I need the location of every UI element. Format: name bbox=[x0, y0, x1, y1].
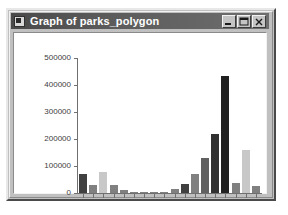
x-axis-tick bbox=[236, 194, 237, 198]
x-axis-tick bbox=[144, 194, 145, 198]
chart-bar bbox=[140, 192, 148, 193]
y-axis-tick-label: 500000 bbox=[14, 53, 71, 62]
x-axis-tick bbox=[195, 194, 196, 198]
y-axis-tick bbox=[74, 112, 78, 113]
app-icon bbox=[14, 16, 25, 27]
y-axis-line bbox=[77, 58, 78, 194]
x-axis-tick bbox=[83, 194, 84, 198]
chart-bar bbox=[252, 186, 260, 193]
chart-bar bbox=[120, 190, 128, 193]
x-axis-tick bbox=[103, 194, 104, 198]
title-bar[interactable]: Graph of parks_polygon bbox=[11, 13, 269, 29]
chart-bar bbox=[160, 192, 168, 193]
y-axis-tick bbox=[74, 58, 78, 59]
chart-bar bbox=[130, 192, 138, 193]
chart-bar bbox=[110, 185, 118, 193]
x-axis-tick bbox=[185, 194, 186, 198]
chart-bar bbox=[150, 192, 158, 193]
chart-bar bbox=[79, 174, 87, 193]
close-icon bbox=[253, 16, 265, 27]
x-axis-tick bbox=[124, 194, 125, 198]
y-axis-tick-label: 100000 bbox=[14, 161, 71, 170]
y-axis-tick-label: 200000 bbox=[14, 134, 71, 143]
chart-bar bbox=[221, 76, 229, 193]
y-axis-tick bbox=[74, 139, 78, 140]
chart-bar bbox=[211, 134, 219, 193]
y-axis-tick-label: 0 bbox=[14, 188, 71, 197]
minimize-button[interactable] bbox=[222, 15, 236, 28]
chart-bar bbox=[171, 189, 179, 193]
y-axis-tick-label: 300000 bbox=[14, 107, 71, 116]
x-axis-tick bbox=[175, 194, 176, 198]
bar-chart: 0100000200000300000400000500000 bbox=[14, 33, 266, 193]
chart-bar bbox=[201, 158, 209, 193]
window-title: Graph of parks_polygon bbox=[30, 15, 221, 27]
chart-bar bbox=[232, 183, 240, 193]
x-axis-tick bbox=[93, 194, 94, 198]
plot-client-area: 0100000200000300000400000500000 bbox=[13, 32, 267, 194]
close-button[interactable] bbox=[252, 15, 266, 28]
x-axis-tick bbox=[246, 194, 247, 198]
x-axis-tick bbox=[114, 194, 115, 198]
chart-bar bbox=[89, 185, 97, 193]
minimize-icon bbox=[223, 16, 235, 27]
x-axis-tick bbox=[154, 194, 155, 198]
x-axis-tick bbox=[164, 194, 165, 198]
chart-bar bbox=[191, 174, 199, 193]
maximize-icon bbox=[238, 16, 250, 27]
x-axis-tick bbox=[256, 194, 257, 198]
chart-bar bbox=[181, 184, 189, 193]
y-axis-tick bbox=[74, 85, 78, 86]
y-axis-tick bbox=[74, 166, 78, 167]
y-axis-tick bbox=[74, 193, 78, 194]
y-axis-tick-label: 400000 bbox=[14, 80, 71, 89]
x-axis-tick bbox=[205, 194, 206, 198]
x-axis-line bbox=[77, 193, 262, 194]
maximize-button[interactable] bbox=[237, 15, 251, 28]
chart-bar bbox=[99, 172, 107, 193]
graph-window: Graph of parks_polygon 01000002000003000… bbox=[6, 8, 276, 201]
x-axis-tick bbox=[225, 194, 226, 198]
x-axis-tick bbox=[215, 194, 216, 198]
x-axis-tick bbox=[134, 194, 135, 198]
chart-bar bbox=[242, 150, 250, 193]
